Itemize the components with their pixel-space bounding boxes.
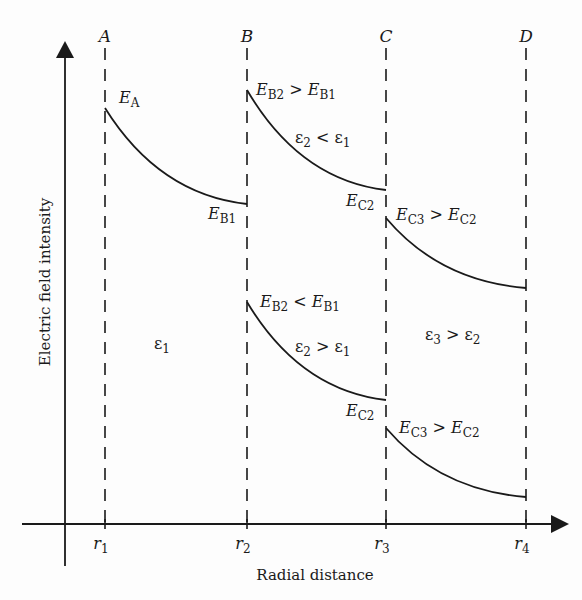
x-axis-label: Radial distance: [256, 566, 374, 584]
radius-tick-label: r2: [235, 534, 250, 556]
diagram-figure: Ar1Br2Cr3Dr4 Electric field intensity Ra…: [0, 0, 582, 600]
field-curve-region3-upper: [386, 218, 526, 288]
boundary-label: A: [97, 26, 111, 46]
y-axis-label: Electric field intensity: [36, 197, 54, 366]
radius-tick-label: r3: [374, 534, 389, 556]
label-E_A: EA: [118, 88, 140, 110]
field-curve-region3-lower: [386, 428, 526, 497]
field-curve-region1: [105, 108, 247, 204]
label-upper_eps_relation: ε2 < ε1: [295, 128, 350, 150]
radius-tick-label: r4: [514, 534, 530, 556]
boundary-label: D: [518, 26, 533, 46]
axes: [22, 58, 556, 566]
annotations: EAEB1EB2 > EB1ε2 < ε1EC2EC3 > EC2ε1EB2 <…: [118, 80, 480, 440]
label-lower_E_C2: EC2: [345, 401, 375, 423]
boundary-lines: Ar1Br2Cr3Dr4: [93, 26, 533, 556]
radius-tick-label: r1: [93, 534, 108, 556]
label-upper_B_relation: EB2 > EB1: [255, 80, 336, 102]
label-eps3_relation: ε3 > ε2: [425, 325, 480, 347]
label-lower_eps_relation: ε2 > ε1: [295, 337, 350, 359]
label-upper_C_relation: EC3 > EC2: [395, 205, 477, 227]
label-eps1: ε1: [154, 334, 170, 356]
y-axis-arrow-icon: [56, 41, 74, 58]
label-lower_B_relation: EB2 < EB1: [259, 292, 340, 314]
label-upper_E_C2: EC2: [345, 191, 375, 213]
label-lower_C_relation: EC3 > EC2: [398, 418, 480, 440]
boundary-label: B: [240, 26, 254, 46]
label-E_B1: EB1: [207, 204, 236, 226]
boundary-label: C: [379, 26, 392, 46]
x-axis-arrow-icon: [551, 515, 569, 533]
